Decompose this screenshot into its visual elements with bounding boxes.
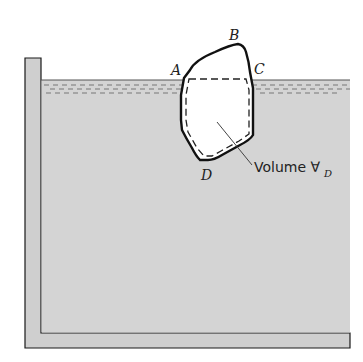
- volume-label: Volume ∀: [254, 159, 321, 175]
- point-label-c: C: [254, 61, 265, 77]
- volume-label-text: Volume: [254, 159, 311, 175]
- point-label-a: A: [169, 62, 181, 78]
- point-label-b: B: [228, 27, 239, 43]
- floating-body: [181, 44, 253, 160]
- point-label-d: D: [200, 167, 212, 183]
- volume-symbol: ∀: [311, 159, 321, 175]
- buoyancy-diagram: A B C D Volume ∀ D: [0, 0, 363, 362]
- volume-subscript: D: [323, 168, 332, 179]
